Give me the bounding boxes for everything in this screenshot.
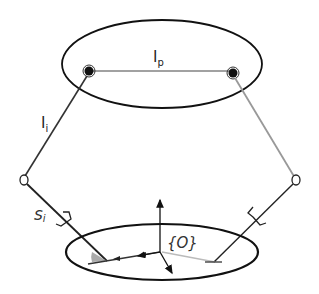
right-knee-joint [292,175,300,185]
left-leg-link [25,76,87,176]
left-knee-joint [20,175,28,185]
right-leg-link [235,78,295,178]
right-slider-rail [214,184,293,262]
x-axis-arrow [138,252,160,256]
origin-frame-label: {O} [167,234,198,252]
right-slider-bracket [248,207,266,225]
parallel-robot-diagram: lp li si {O} [0,0,319,294]
slider-label: si [34,204,46,224]
base-vector-right [162,252,215,262]
leg-length-label: li [41,113,48,134]
right-platform-joint [227,67,239,79]
left-platform-joint [83,65,95,77]
platform-length-label: lp [153,47,164,68]
y-axis-arrow [160,252,172,273]
